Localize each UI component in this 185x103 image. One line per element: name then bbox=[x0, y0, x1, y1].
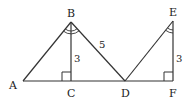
geometry-diagram: B A C D E F 3 5 3 bbox=[0, 0, 185, 103]
measure-bc: 3 bbox=[74, 53, 80, 64]
label-d: D bbox=[121, 87, 130, 100]
label-f: F bbox=[169, 87, 177, 100]
angle-arc-e-inner bbox=[168, 28, 173, 30]
label-e: E bbox=[169, 6, 177, 19]
angle-arc-e-outer bbox=[166, 30, 173, 33]
measure-bd: 5 bbox=[99, 39, 105, 50]
label-b: B bbox=[67, 7, 75, 20]
measure-ef: 3 bbox=[176, 53, 182, 64]
label-a: A bbox=[8, 79, 18, 92]
right-angle-marker-f bbox=[164, 72, 173, 81]
right-angle-marker-c bbox=[62, 72, 71, 81]
label-c: C bbox=[67, 87, 75, 100]
